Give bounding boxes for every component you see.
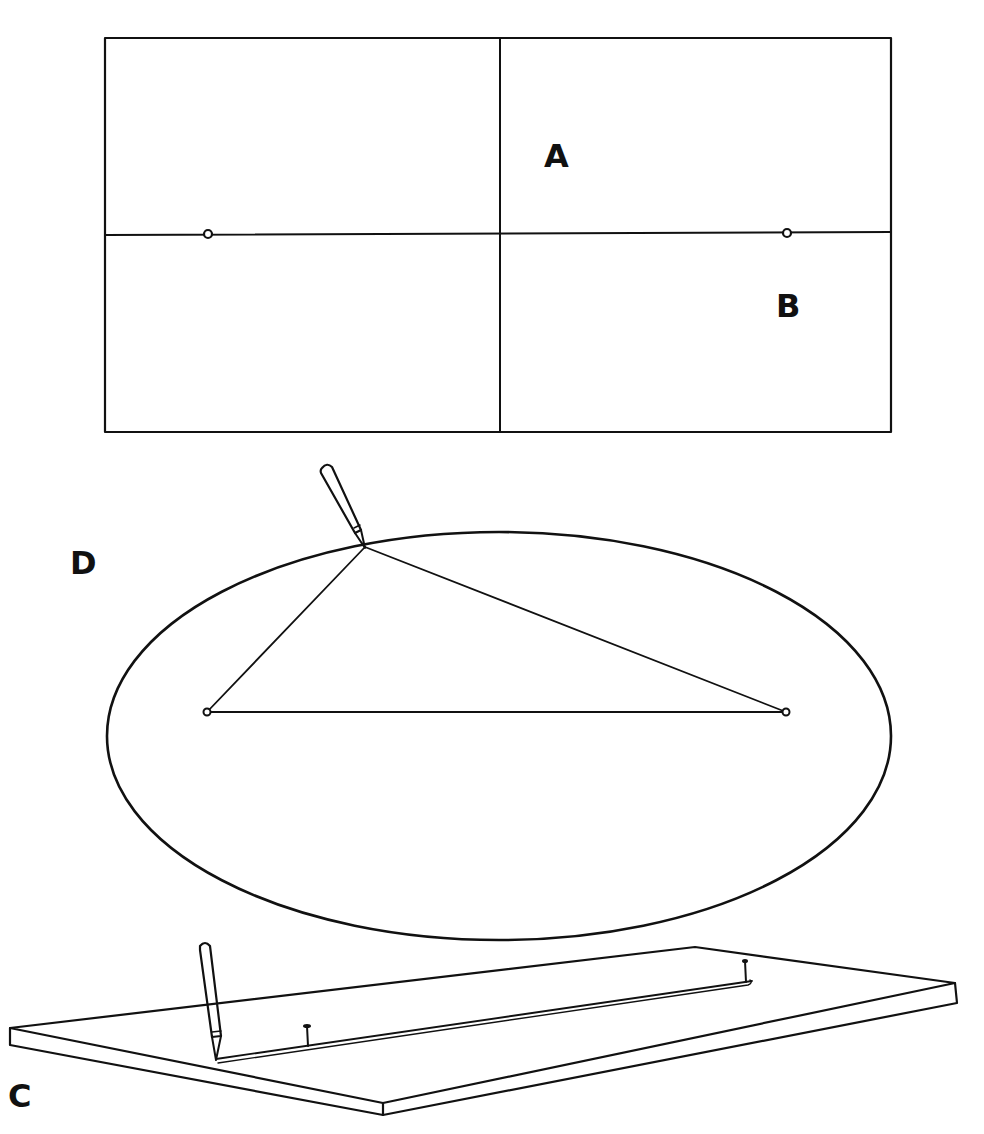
pin-icon — [745, 961, 746, 982]
pin-head-icon — [742, 959, 748, 963]
pin-icon — [204, 230, 212, 238]
board-front-edge — [10, 1028, 383, 1115]
focus-pin-icon — [204, 709, 211, 716]
pin-icon — [783, 229, 791, 237]
label-c: C — [8, 1080, 31, 1112]
ellipse-panel — [107, 465, 891, 940]
string-right — [365, 547, 786, 712]
ellipse-curve — [107, 532, 891, 940]
label-b: B — [776, 290, 800, 322]
figure-canvas — [0, 0, 984, 1134]
pin-head-icon — [303, 1024, 311, 1028]
string-line — [216, 981, 752, 1059]
pin-icon — [307, 1026, 308, 1046]
string-left — [207, 547, 365, 712]
pencil-icon — [321, 465, 365, 548]
horizontal-axis — [105, 232, 891, 235]
label-a: A — [544, 140, 569, 172]
board-top — [10, 947, 955, 1103]
pencil-icon — [200, 943, 221, 1060]
rectangle-panel — [105, 38, 891, 432]
board-side-edge — [383, 983, 957, 1115]
focus-pin-icon — [783, 709, 790, 716]
label-d: D — [70, 547, 97, 579]
board-panel — [10, 943, 957, 1115]
